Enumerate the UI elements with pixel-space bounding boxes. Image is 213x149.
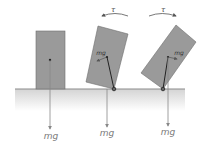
center-of-mass-dot — [106, 56, 108, 58]
pivot-point — [161, 87, 165, 91]
block-tipped-restoring: mg mg τ — [86, 6, 128, 138]
block-upright: mg — [36, 31, 65, 141]
gravity-label: mg — [161, 127, 176, 137]
torque-label: τ — [111, 6, 116, 14]
inner-force-label: mg — [174, 49, 184, 57]
block-tipped-overturning: mg mg τ — [141, 6, 196, 137]
torque-label: τ — [161, 6, 166, 14]
ground-shade — [15, 89, 185, 111]
stability-diagram: mg mg mg τ mg mg τ — [0, 0, 213, 149]
inner-force-label: mg — [96, 49, 106, 57]
gravity-label: mg — [100, 128, 115, 138]
pivot-point — [112, 87, 116, 91]
gravity-label: mg — [44, 131, 59, 141]
